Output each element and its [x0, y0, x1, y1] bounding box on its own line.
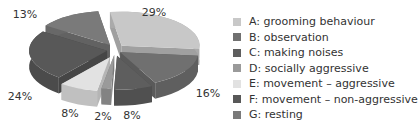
legend-label: F: movement – non-aggressive — [249, 93, 418, 106]
legend-label: D: socially aggressive — [249, 62, 369, 75]
legend-swatch — [233, 64, 241, 72]
legend-item: G: resting — [233, 107, 418, 123]
legend-label: G: resting — [249, 108, 303, 121]
legend-swatch — [233, 49, 241, 57]
slice-rim — [101, 89, 111, 105]
data-label-b: 16% — [196, 87, 220, 100]
data-label-a: 29% — [142, 6, 166, 19]
data-label-g: 13% — [13, 8, 37, 21]
data-label-e: 8% — [61, 107, 78, 120]
legend-swatch — [233, 95, 241, 103]
legend-item: B: observation — [233, 30, 418, 46]
data-label-f: 24% — [8, 90, 32, 103]
pie-chart: 29%16%8%2%8%24%13% — [0, 0, 230, 126]
legend-label: C: making noises — [249, 46, 343, 59]
legend-label: E: movement – aggressive — [249, 77, 395, 90]
data-label-c: 8% — [123, 109, 140, 122]
legend-item: F: movement – non-aggressive — [233, 92, 418, 108]
legend-label: A: grooming behaviour — [249, 15, 375, 28]
legend-item: D: socially aggressive — [233, 61, 418, 77]
legend-swatch — [233, 18, 241, 26]
data-label-d: 2% — [94, 110, 111, 123]
legend-label: B: observation — [249, 31, 329, 44]
legend-item: C: making noises — [233, 45, 418, 61]
legend: A: grooming behaviourB: observationC: ma… — [233, 14, 418, 123]
legend-swatch — [233, 80, 241, 88]
legend-swatch — [233, 111, 241, 119]
legend-item: A: grooming behaviour — [233, 14, 418, 30]
legend-item: E: movement – aggressive — [233, 76, 418, 92]
legend-swatch — [233, 33, 241, 41]
